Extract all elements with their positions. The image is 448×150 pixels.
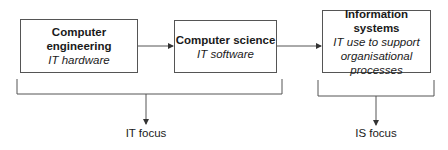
box-title: Computer engineering bbox=[21, 25, 137, 53]
box-subtitle: organisational bbox=[341, 49, 413, 63]
box-title: Computer science bbox=[176, 33, 276, 47]
it-focus-label: IT focus bbox=[106, 127, 186, 139]
is-focus-label: IS focus bbox=[336, 127, 416, 139]
computer-engineering-box: Computer engineering IT hardware bbox=[20, 19, 138, 73]
box-subtitle: processes bbox=[350, 63, 402, 77]
box-title: Information systems bbox=[323, 7, 430, 35]
is-bracket bbox=[318, 80, 434, 96]
box-subtitle: IT hardware bbox=[48, 53, 109, 67]
it-bracket bbox=[17, 79, 282, 94]
information-systems-box: Information systems IT use to support or… bbox=[322, 10, 431, 73]
box-subtitle: IT use to support bbox=[333, 35, 419, 49]
computer-science-box: Computer science IT software bbox=[174, 20, 277, 73]
box-subtitle: IT software bbox=[197, 47, 254, 61]
